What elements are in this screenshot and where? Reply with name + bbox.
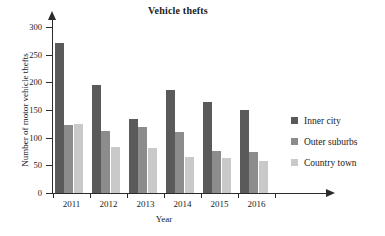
bar-2013-inner-city	[129, 119, 138, 193]
y-axis-tick	[46, 55, 53, 56]
x-axis-tick-label: 2013	[126, 199, 166, 209]
bar-2014-inner-city	[166, 90, 175, 193]
x-axis-tick-label: 2011	[52, 199, 92, 209]
y-axis-tick	[46, 82, 53, 83]
bar-2011-outer-suburbs	[64, 125, 73, 193]
x-axis-tick-label: 2012	[89, 199, 129, 209]
y-axis-arrow-icon	[48, 11, 56, 20]
legend-label: Inner city	[304, 116, 341, 126]
x-axis-tick	[164, 193, 165, 198]
legend-label: Country town	[304, 158, 357, 168]
bar-2013-outer-suburbs	[138, 127, 147, 193]
legend-label: Outer suburbs	[304, 137, 358, 147]
legend-swatch-icon	[291, 159, 298, 166]
bar-2015-inner-city	[203, 102, 212, 193]
bar-2011-inner-city	[55, 43, 64, 193]
legend-item-outer-suburbs[interactable]: Outer suburbs	[291, 131, 358, 152]
chart-title: Vehicle thefts	[108, 5, 248, 16]
plot-area	[53, 27, 275, 193]
y-axis-tick	[46, 27, 53, 28]
bar-2015-outer-suburbs	[212, 151, 221, 193]
bar-2012-inner-city	[92, 85, 101, 193]
chart-legend: Inner cityOuter suburbsCountry town	[291, 110, 358, 173]
x-axis-tick	[275, 193, 276, 198]
legend-item-inner-city[interactable]: Inner city	[291, 110, 358, 131]
legend-swatch-icon	[291, 138, 298, 145]
bar-2016-inner-city	[240, 110, 249, 193]
y-axis-tick	[46, 110, 53, 111]
bar-2012-outer-suburbs	[101, 131, 110, 193]
x-axis-tick	[238, 193, 239, 198]
vehicle-thefts-bar-chart: Vehicle thefts 050100150200250300 201120…	[0, 0, 385, 236]
x-axis-line	[52, 193, 327, 194]
bar-2012-country-town	[111, 147, 120, 193]
x-axis-tick	[201, 193, 202, 198]
x-axis-tick-label: 2015	[200, 199, 240, 209]
bar-2011-country-town	[74, 124, 83, 193]
x-axis-arrow-icon	[326, 189, 335, 197]
bar-2014-country-town	[185, 157, 194, 193]
x-axis-tick-label: 2014	[163, 199, 203, 209]
x-axis-tick	[90, 193, 91, 198]
y-axis-title: Number of motor vehicle thefts	[20, 10, 30, 210]
y-axis-tick	[46, 193, 53, 194]
x-axis-tick	[53, 193, 54, 198]
x-axis-title: Year	[53, 214, 275, 224]
bar-2013-country-town	[148, 148, 157, 193]
bar-2015-country-town	[222, 158, 231, 193]
bar-2016-country-town	[259, 161, 268, 193]
bar-2016-outer-suburbs	[249, 152, 258, 193]
x-axis-tick-label: 2016	[237, 199, 277, 209]
x-axis-tick	[127, 193, 128, 198]
y-axis-tick	[46, 138, 53, 139]
legend-item-country-town[interactable]: Country town	[291, 152, 358, 173]
y-axis-tick	[46, 165, 53, 166]
bar-2014-outer-suburbs	[175, 132, 184, 193]
legend-swatch-icon	[291, 117, 298, 124]
